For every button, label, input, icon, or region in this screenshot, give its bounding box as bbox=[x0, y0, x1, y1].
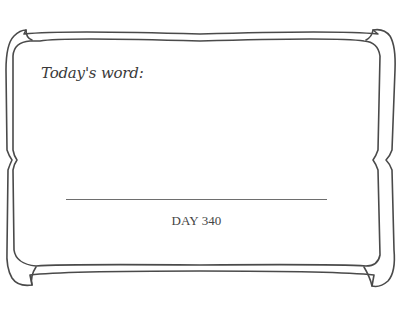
ornamental-frame-icon bbox=[0, 0, 409, 312]
answer-writing-line bbox=[66, 199, 327, 200]
day-number-label: DAY 340 bbox=[0, 213, 393, 229]
word-of-day-card: Today's word: DAY 340 bbox=[0, 0, 409, 312]
todays-word-prompt: Today's word: bbox=[41, 64, 144, 82]
